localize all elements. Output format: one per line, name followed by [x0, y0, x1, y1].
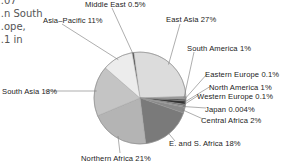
- pie-slice: [134, 52, 186, 98]
- leader-line: [182, 110, 203, 119]
- leader-line: [169, 24, 181, 65]
- label-central-africa: Central Africa 2%: [201, 116, 261, 125]
- leader-line: [112, 8, 133, 55]
- label-middle-east: Middle East 0.5%: [85, 0, 146, 9]
- label-e-s-africa: E. and S. Africa 18%: [169, 139, 241, 148]
- label-south-asia: South Asia 18%: [2, 87, 57, 96]
- label-south-america: South America 1%: [187, 44, 251, 53]
- label-japan: Japan 0.004%: [205, 105, 255, 114]
- label-asia-pacific: Asia–Pacific 11%: [43, 16, 103, 25]
- label-northern-africa: Northern Africa 21%: [81, 154, 151, 163]
- label-western-europe: Western Europe 0.1%: [197, 92, 273, 101]
- leader-line: [62, 24, 118, 60]
- label-eastern-europe: Eastern Europe 0.1%: [205, 70, 279, 79]
- label-north-america: North America 1%: [209, 83, 272, 92]
- label-east-asia: East Asia 27%: [166, 15, 216, 24]
- leader-line: [183, 107, 206, 109]
